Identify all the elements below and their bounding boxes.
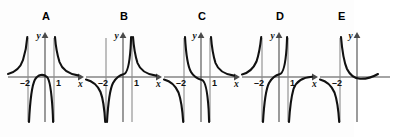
- graph-label-c: C: [160, 10, 244, 22]
- graph-plot-b: –2 1 x y: [82, 22, 166, 132]
- y-axis-arrow-icon: [42, 32, 49, 38]
- y-axis-label: y: [192, 31, 198, 41]
- curve-right-branch: [133, 37, 156, 76]
- y-axis-arrow-icon: [120, 32, 127, 38]
- curve-middle-branch: [29, 75, 53, 122]
- y-axis-arrow-icon: [354, 32, 361, 38]
- graph-option-d[interactable]: D –2 1 x y: [238, 0, 322, 137]
- tick-label-pos1: 1: [134, 78, 139, 88]
- tick-label-neg2: –2: [98, 78, 108, 88]
- tick-label-neg2: –2: [176, 78, 186, 88]
- tick-label-neg2: –2: [20, 78, 30, 88]
- curve-middle-branch: [341, 37, 378, 79]
- y-axis-arrow-icon: [198, 32, 205, 38]
- graph-plot-d: –2 1 x y: [238, 22, 322, 132]
- graph-label-b: B: [82, 10, 166, 22]
- y-axis-label: y: [270, 31, 276, 41]
- tick-label-pos1: 1: [56, 78, 61, 88]
- tick-label-pos1: 1: [290, 78, 295, 88]
- curve-right-branch: [211, 37, 234, 76]
- graph-option-c[interactable]: C –2 1 x y: [160, 0, 244, 137]
- graph-label-e: E: [338, 10, 394, 22]
- graph-plot-e: –2 y: [316, 22, 394, 132]
- tick-label-neg2: –2: [332, 78, 342, 88]
- tick-label-neg2: –2: [254, 78, 264, 88]
- graph-label-a: A: [4, 10, 88, 22]
- y-axis-label: y: [114, 31, 120, 41]
- graph-option-b[interactable]: B –2 1 x y: [82, 0, 166, 137]
- graph-option-e[interactable]: E –2 y: [316, 0, 394, 137]
- graph-plot-a: –2 1 x y: [4, 22, 88, 132]
- curve-middle-branch: [263, 37, 287, 122]
- curve-left-branch: [8, 37, 27, 74]
- curve-middle-branch: [185, 37, 209, 122]
- graph-label-d: D: [238, 10, 322, 22]
- graph-plot-c: –2 1 x y: [160, 22, 244, 132]
- graph-option-a[interactable]: A –2 1 x y: [4, 0, 88, 137]
- tick-label-pos1: 1: [212, 78, 217, 88]
- curve-left-branch: [242, 37, 261, 75]
- y-axis-label: y: [36, 31, 42, 41]
- y-axis-label: y: [348, 31, 354, 41]
- curve-right-branch: [55, 37, 78, 75]
- curve-middle-branch: [107, 37, 131, 122]
- y-axis-arrow-icon: [276, 32, 283, 38]
